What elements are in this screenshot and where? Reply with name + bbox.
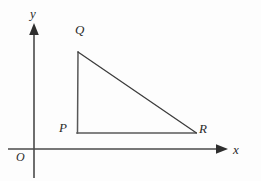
triangle-edge-pq [78,52,79,133]
y-axis-label: y [30,7,36,20]
vertex-label-q: Q [75,23,84,36]
arrow-right-icon [216,144,228,154]
diagram-canvas [0,0,261,181]
origin-label: O [16,151,25,163]
geometry-diagram: y x O Q P R [0,0,261,181]
triangle-edge-qr [78,52,197,133]
x-axis-label: x [233,143,239,156]
vertex-label-p: P [59,121,67,134]
vertex-label-r: R [199,122,207,135]
arrow-up-icon [29,23,39,35]
